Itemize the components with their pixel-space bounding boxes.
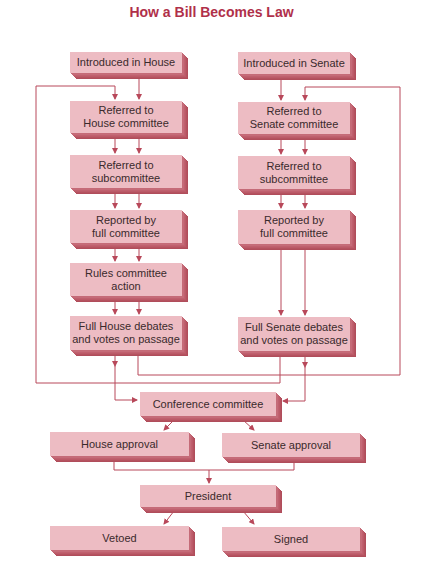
node-label: President xyxy=(185,490,231,503)
node-senate-subcommittee: Referred to subcommittee xyxy=(238,156,350,189)
node-label: Reported by full committee xyxy=(92,214,160,240)
node-house-approval: House approval xyxy=(50,432,189,456)
node-senate-introduced: Introduced in Senate xyxy=(238,52,350,74)
node-label: Reported by full committee xyxy=(260,214,328,240)
node-label: Vetoed xyxy=(102,532,136,545)
node-label: Referred to subcommittee xyxy=(260,160,328,186)
node-president: President xyxy=(140,485,276,507)
node-label: Senate approval xyxy=(251,439,331,452)
node-conference-committee: Conference committee xyxy=(140,392,276,416)
node-house-introduced: Introduced in House xyxy=(70,52,182,73)
node-label: Referred to House committee xyxy=(83,104,169,130)
node-label: Rules committee action xyxy=(85,267,167,293)
node-label: Conference committee xyxy=(153,398,264,411)
node-house-committee: Referred to House committee xyxy=(70,101,182,133)
node-house-subcommittee: Referred to subcommittee xyxy=(70,155,182,188)
node-senate-committee: Referred to Senate committee xyxy=(238,102,350,134)
node-senate-floor: Full Senate debates and votes on passage xyxy=(238,317,350,351)
node-label: Introduced in Senate xyxy=(243,57,345,70)
node-senate-reported: Reported by full committee xyxy=(238,210,350,244)
node-label: Referred to Senate committee xyxy=(250,105,339,131)
node-house-floor: Full House debates and votes on passage xyxy=(70,316,182,350)
node-senate-approval: Senate approval xyxy=(222,433,360,457)
node-house-reported: Reported by full committee xyxy=(70,210,182,243)
node-vetoed: Vetoed xyxy=(50,526,189,550)
node-signed: Signed xyxy=(222,527,360,551)
node-label: Referred to subcommittee xyxy=(92,159,160,185)
node-label: Introduced in House xyxy=(77,56,175,69)
node-label: Signed xyxy=(274,533,308,546)
node-label: House approval xyxy=(81,438,158,451)
node-label: Full Senate debates and votes on passage xyxy=(240,321,348,347)
node-house-rules: Rules committee action xyxy=(70,263,182,296)
node-label: Full House debates and votes on passage xyxy=(72,320,180,346)
